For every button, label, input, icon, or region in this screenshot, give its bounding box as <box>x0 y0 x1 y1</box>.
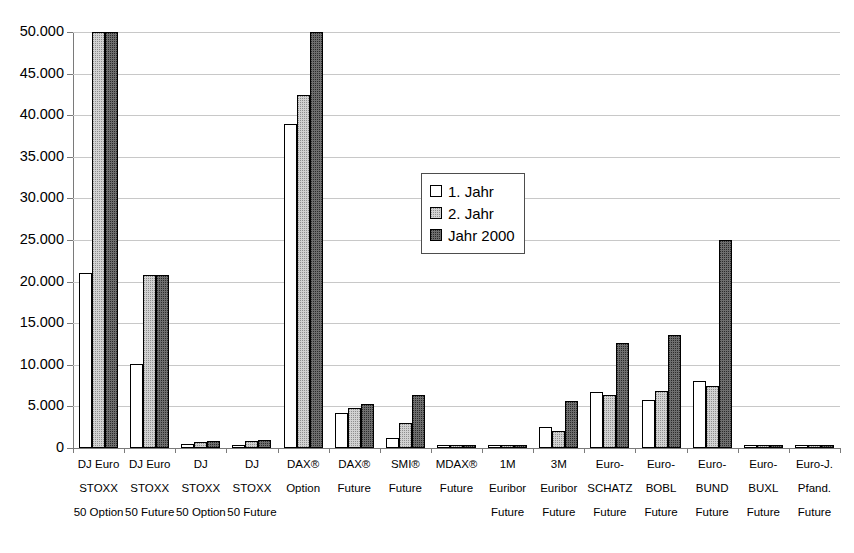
x-axis-tick-mark <box>380 448 381 453</box>
x-axis-group-label: Euro-BUXLFuture <box>738 452 789 524</box>
x-axis-label-line: Euribor <box>533 476 584 500</box>
bar <box>719 240 732 448</box>
y-axis-tick-mark <box>67 282 73 283</box>
y-axis-tick-label: 0 <box>0 440 64 454</box>
x-axis-labels: DJ EuroSTOXX50 OptionDJ EuroSTOXX50 Futu… <box>73 452 840 553</box>
x-axis-label-line: Future <box>533 500 584 524</box>
bar <box>258 440 271 448</box>
x-axis-label-line: Future <box>329 476 380 500</box>
y-axis-labels: 05.00010.00015.00020.00025.00030.00035.0… <box>0 0 64 553</box>
bar <box>232 445 245 448</box>
y-axis-tick-label: 25.000 <box>0 232 64 246</box>
bar <box>105 32 118 448</box>
bar <box>361 404 374 449</box>
x-axis-label-line <box>329 500 380 524</box>
x-axis-label-line: SMI® <box>380 452 431 476</box>
bar-group <box>635 32 686 448</box>
y-axis-tick-mark <box>67 240 73 241</box>
bar <box>437 445 450 448</box>
bar-group <box>73 32 124 448</box>
x-axis-label-line: Euro- <box>635 452 686 476</box>
x-axis-tick-mark <box>329 448 330 453</box>
y-axis-tick-label: 30.000 <box>0 190 64 204</box>
bar <box>565 401 578 448</box>
bar <box>757 445 770 448</box>
y-axis-tick-mark <box>67 32 73 33</box>
bar-group-bars <box>533 32 584 448</box>
x-axis-label-line: Pfand. <box>789 476 840 500</box>
bar-chart: 05.00010.00015.00020.00025.00030.00035.0… <box>0 0 854 553</box>
bar-group-bars <box>687 32 738 448</box>
x-axis-tick-mark <box>124 448 125 453</box>
x-axis-label-line: STOXX <box>73 476 124 500</box>
x-axis-label-line <box>380 500 431 524</box>
x-axis-label-line: Future <box>584 500 635 524</box>
bar-group-bars <box>584 32 635 448</box>
x-axis-tick-mark <box>533 448 534 453</box>
legend-entry-label: Jahr 2000 <box>448 227 515 244</box>
x-axis-group-label: DJ EuroSTOXX50 Option <box>73 452 124 524</box>
x-axis-label-line: MDAX® <box>431 452 482 476</box>
x-axis-label-line: BOBL <box>635 476 686 500</box>
legend-swatch-icon <box>430 229 442 241</box>
legend-entry: Jahr 2000 <box>430 224 515 246</box>
bar-group <box>278 32 329 448</box>
x-axis-label-line: Future <box>482 500 533 524</box>
x-axis-label-line: DJ Euro <box>124 452 175 476</box>
y-axis-tick-label: 40.000 <box>0 107 64 121</box>
bar <box>194 442 207 448</box>
y-axis-tick-mark <box>67 406 73 407</box>
bar <box>616 343 629 448</box>
x-axis-label-line: Future <box>738 500 789 524</box>
bar-group-bars <box>789 32 840 448</box>
x-axis-group-label: Euro-SCHATZFuture <box>584 452 635 524</box>
x-axis-tick-mark <box>738 448 739 453</box>
x-axis-label-line: STOXX <box>175 476 226 500</box>
x-axis-label-line: DAX® <box>278 452 329 476</box>
bar <box>552 431 565 448</box>
bar <box>706 386 719 448</box>
x-axis-tick-mark <box>840 448 841 453</box>
x-axis-label-line: DJ <box>175 452 226 476</box>
x-axis-group-label: Euro-BUNDFuture <box>687 452 738 524</box>
x-axis-label-line: 1M <box>482 452 533 476</box>
bar <box>770 445 783 448</box>
bar <box>450 445 463 448</box>
bar <box>386 438 399 448</box>
x-axis-label-line: 50 Option <box>73 500 124 524</box>
bar <box>501 445 514 448</box>
bar <box>539 427 552 448</box>
bar <box>92 32 105 448</box>
x-axis-tick-mark <box>226 448 227 453</box>
bar-group <box>687 32 738 448</box>
bar <box>642 400 655 448</box>
bar-group-bars <box>73 32 124 448</box>
x-axis-label-line <box>431 500 482 524</box>
x-axis-group-label: SMI®Future <box>380 452 431 524</box>
legend-entry-label: 2. Jahr <box>448 205 494 222</box>
bar <box>488 445 501 448</box>
bar <box>603 395 616 448</box>
x-axis-tick-mark <box>175 448 176 453</box>
x-axis-tick-mark <box>635 448 636 453</box>
bar <box>297 95 310 448</box>
bar-group <box>738 32 789 448</box>
bar-group-bars <box>738 32 789 448</box>
x-axis-label-line: STOXX <box>124 476 175 500</box>
x-axis-label-line: 3M <box>533 452 584 476</box>
x-axis-label-line: BUND <box>687 476 738 500</box>
bar <box>310 32 323 448</box>
bar <box>668 335 681 448</box>
bar-group-bars <box>635 32 686 448</box>
x-axis-label-line: 50 Option <box>175 500 226 524</box>
bar <box>284 124 297 448</box>
x-axis-label-line: Euro-J. <box>789 452 840 476</box>
x-axis-label-line: Euro- <box>738 452 789 476</box>
legend-swatch-icon <box>430 207 442 219</box>
bar-group <box>226 32 277 448</box>
x-axis-tick-mark <box>431 448 432 453</box>
x-axis-label-line: 50 Future <box>124 500 175 524</box>
x-axis-group-label: 3MEuriborFuture <box>533 452 584 524</box>
x-axis-tick-mark <box>73 448 74 453</box>
y-axis-tick-mark <box>67 157 73 158</box>
